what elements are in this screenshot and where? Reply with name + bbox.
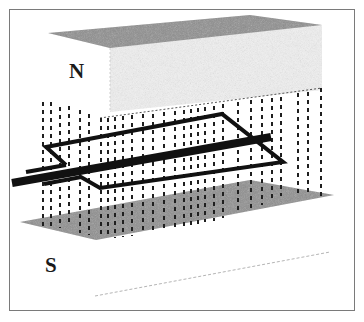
south-pole [20, 180, 334, 296]
north-pole-label: N [69, 59, 84, 84]
south-pole-face [20, 180, 334, 240]
south-pole-label: S [45, 253, 57, 278]
south-pole-edge [95, 252, 330, 296]
